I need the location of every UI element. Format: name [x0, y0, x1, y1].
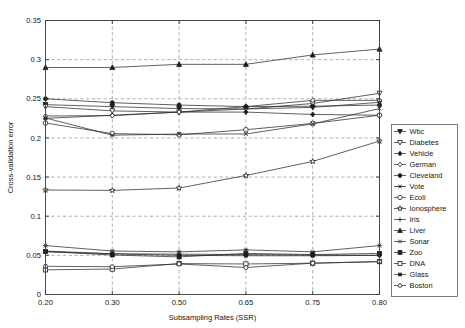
legend-label-iris: Iris: [410, 215, 420, 224]
data-point-marker: [398, 261, 402, 265]
data-point-marker: [110, 101, 114, 105]
legend-label-vote: Vote: [410, 182, 425, 191]
legend-layer[interactable]: WbcDiabetesVehicleGermanClevelandVoteEco…: [392, 125, 458, 297]
x-tick-label: 0.30: [105, 298, 120, 307]
data-point-marker: [244, 265, 248, 269]
data-point-marker: [311, 254, 314, 257]
data-point-marker: [111, 252, 114, 255]
y-tick-label: 0.2: [30, 134, 41, 143]
data-point-marker: [311, 261, 315, 265]
data-point-marker: [110, 265, 114, 269]
data-point-marker: [398, 251, 402, 255]
y-tick-label: 0.05: [26, 251, 41, 260]
legend-label-boston: Boston: [410, 281, 433, 290]
legend-label-german: German: [410, 160, 437, 169]
y-tick-label: 0.1: [30, 212, 41, 221]
x-tick-label: 0.65: [239, 298, 254, 307]
legend-label-ionosphere: Ionosphere: [410, 204, 447, 213]
cross-validation-error-line-chart: 00.050.10.150.20.250.30.350.200.300.500.…: [0, 0, 465, 328]
data-point-marker: [177, 132, 182, 137]
data-point-marker: [398, 195, 402, 199]
x-axis-title: Subsampling Rates (SSR): [169, 313, 257, 322]
x-tick-label: 0.80: [372, 298, 387, 307]
y-tick-label: 0.35: [26, 16, 41, 25]
legend-label-diabetes: Diabetes: [410, 138, 439, 147]
y-tick-label: 0.15: [26, 173, 41, 182]
legend-label-liver: Liver: [410, 226, 427, 235]
data-point-marker: [398, 284, 402, 288]
legend-label-ecoli: Ecoli: [410, 193, 426, 202]
data-point-marker: [178, 254, 181, 257]
legend-label-sonar: Sonar: [410, 237, 430, 246]
x-tick-label: 0.75: [305, 298, 320, 307]
y-axis-title: Cross-validation error: [6, 121, 15, 193]
y-tick-label: 0.25: [26, 94, 41, 103]
data-point-marker: [399, 273, 402, 276]
data-point-marker: [244, 105, 248, 109]
y-tick-label: 0.3: [30, 55, 41, 64]
legend-label-wbc: Wbc: [410, 127, 425, 136]
legend-label-cleveland: Cleveland: [410, 171, 443, 180]
data-point-marker: [177, 262, 181, 266]
x-tick-label: 0.20: [38, 298, 53, 307]
data-point-marker: [177, 103, 181, 107]
chart-figure-root: 00.050.10.150.20.250.30.350.200.300.500.…: [0, 0, 465, 328]
data-point-marker: [311, 104, 315, 108]
data-point-marker: [244, 127, 249, 132]
legend-label-dna: DNA: [410, 259, 426, 268]
data-point-marker: [244, 254, 247, 257]
x-tick-label: 0.50: [172, 298, 187, 307]
data-point-marker: [398, 174, 402, 178]
legend-label-vehicle: Vehicle: [410, 149, 434, 158]
legend-label-glass: Glass: [410, 270, 429, 279]
legend-label-zoo: Zoo: [410, 248, 423, 257]
